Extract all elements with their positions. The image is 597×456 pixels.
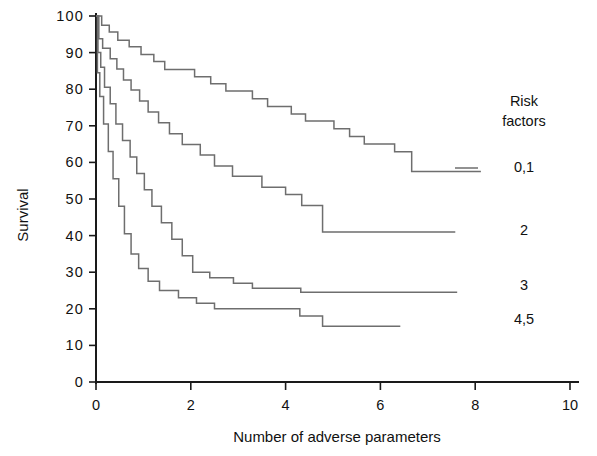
x-tick-label-0: 0 xyxy=(92,397,100,413)
survival-curve-2 xyxy=(96,16,455,232)
legend-label-2: 2 xyxy=(520,222,528,238)
y-axis-title: Survival xyxy=(14,188,31,241)
y-tick-label-90: 90 xyxy=(65,45,84,61)
y-tick-label-80: 80 xyxy=(65,81,84,97)
y-tick-label-40: 40 xyxy=(65,228,84,244)
survival-curve-0-1 xyxy=(96,16,481,172)
x-tick-label-8: 8 xyxy=(471,397,479,413)
y-tick-label-30: 30 xyxy=(65,264,84,280)
legend-title-line-2: factors xyxy=(502,113,546,129)
y-axis-group: 1009080706050403020100 xyxy=(56,8,96,390)
survival-curves-group xyxy=(96,16,481,326)
y-tick-label-20: 20 xyxy=(65,301,84,317)
legend-label-4-5: 4,5 xyxy=(514,311,534,327)
legend-label-0-1: 0,1 xyxy=(514,159,534,175)
x-tick-label-6: 6 xyxy=(376,397,384,413)
survival-chart-figure: 1009080706050403020100 0246810 Survival … xyxy=(0,0,597,456)
x-tick-label-2: 2 xyxy=(187,397,195,413)
y-axis-ticks xyxy=(89,16,96,382)
legend-title-line-1: Risk xyxy=(510,93,539,109)
kaplan-meier-plot: 1009080706050403020100 0246810 Survival … xyxy=(0,0,597,456)
x-tick-label-10: 10 xyxy=(562,397,578,413)
x-axis-title: Number of adverse parameters xyxy=(233,428,441,445)
x-axis-group: 0246810 xyxy=(92,382,578,413)
y-tick-label-10: 10 xyxy=(65,337,84,353)
y-axis-tick-labels: 1009080706050403020100 xyxy=(56,8,84,390)
x-axis-ticks xyxy=(96,382,570,390)
y-tick-label-50: 50 xyxy=(65,191,84,207)
x-tick-label-4: 4 xyxy=(282,397,290,413)
y-tick-label-70: 70 xyxy=(65,118,84,134)
y-tick-label-60: 60 xyxy=(65,154,84,170)
x-axis-tick-labels: 0246810 xyxy=(92,397,578,413)
y-tick-label-0: 0 xyxy=(75,374,84,390)
survival-curve-3 xyxy=(96,16,457,292)
survival-curve-4-5 xyxy=(96,16,400,326)
legend-label-3: 3 xyxy=(520,277,528,293)
legend-items-group: 0,1234,5 xyxy=(455,159,534,327)
y-tick-label-100: 100 xyxy=(56,8,84,24)
